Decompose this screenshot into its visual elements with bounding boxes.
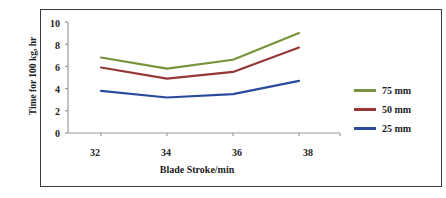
- y-tick-label-6: 6: [38, 62, 60, 73]
- legend-swatch-75mm: [354, 89, 376, 92]
- y-tick-label-4: 4: [38, 84, 60, 95]
- y-tick-label-10: 10: [38, 18, 60, 29]
- x-tick-label-36: 36: [224, 147, 250, 158]
- y-tick-label-2: 2: [38, 106, 60, 117]
- legend-item-50mm: 50 mm: [354, 100, 440, 119]
- chart-figure: Time for 100 kg, hr 10 8 6 4 2 0 32 34 3…: [0, 0, 446, 198]
- x-axis-title: Blade Stroke/min: [82, 164, 312, 175]
- legend-swatch-25mm: [354, 127, 376, 130]
- page-frame: Time for 100 kg, hr 10 8 6 4 2 0 32 34 3…: [2, 1, 442, 195]
- legend-swatch-50mm: [354, 108, 376, 111]
- legend-item-75mm: 75 mm: [354, 81, 440, 100]
- x-tick-label-34: 34: [153, 147, 179, 158]
- y-tick-label-8: 8: [38, 40, 60, 51]
- y-axis-title: Time for 100 kg, hr: [28, 26, 38, 126]
- legend-item-25mm: 25 mm: [354, 119, 440, 138]
- legend-label-75mm: 75 mm: [382, 85, 411, 96]
- legend-label-50mm: 50 mm: [382, 104, 411, 115]
- legend-label-25mm: 25 mm: [382, 123, 411, 134]
- chart-legend: 75 mm 50 mm 25 mm: [354, 81, 440, 138]
- x-tick-label-32: 32: [82, 147, 108, 158]
- x-tick-label-38: 38: [295, 147, 321, 158]
- y-tick-label-0: 0: [38, 128, 60, 139]
